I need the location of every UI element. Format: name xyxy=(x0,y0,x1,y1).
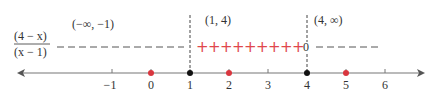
interval-label-middle: (1, 4) xyxy=(205,13,231,27)
test-point-5 xyxy=(343,70,349,76)
svg-text:+: + xyxy=(256,38,269,56)
tick-label: 0 xyxy=(148,78,154,92)
svg-text:+: + xyxy=(280,38,293,56)
tick-label: 1 xyxy=(187,78,193,92)
expression-denominator: (x − 1) xyxy=(14,45,47,59)
svg-text:+: + xyxy=(268,38,281,56)
test-point-0 xyxy=(148,70,154,76)
expression-numerator: (4 − x) xyxy=(14,29,47,43)
interval-label-right: (4, ∞) xyxy=(314,13,343,27)
critical-point-4 xyxy=(304,70,310,76)
critical-point-1 xyxy=(187,70,193,76)
interval-label-left: (−∞, −1) xyxy=(72,17,114,31)
tick-label: 5 xyxy=(343,78,349,92)
svg-text:+: + xyxy=(208,38,221,56)
svg-text:+: + xyxy=(232,38,245,56)
tick-label: 4 xyxy=(304,78,310,92)
test-point-2 xyxy=(226,70,232,76)
positive-signs-middle: + + + + + + + + + xyxy=(196,38,305,56)
svg-text:+: + xyxy=(244,38,257,56)
expression-fraction: (4 − x) (x − 1) xyxy=(14,29,50,59)
zero-marker: 0 xyxy=(303,40,309,54)
tick-label: −1 xyxy=(104,78,117,92)
tick-label: 3 xyxy=(265,78,271,92)
svg-text:+: + xyxy=(196,38,209,56)
number-line: −1 0 1 2 3 4 5 6 xyxy=(17,69,425,92)
sign-chart-diagram: (4 − x) (x − 1) (−∞, −1) (1, 4) (4, ∞) +… xyxy=(0,0,442,100)
svg-text:+: + xyxy=(220,38,233,56)
tick-label: 2 xyxy=(226,78,232,92)
tick-label: 6 xyxy=(382,78,388,92)
